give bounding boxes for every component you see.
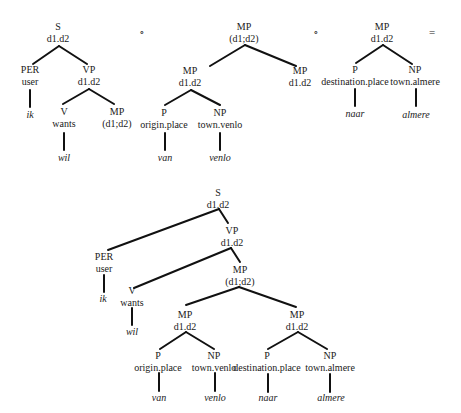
node-category: MP — [178, 309, 193, 320]
node-feature: user — [22, 76, 39, 87]
node-feature: d1.d2 — [221, 237, 244, 248]
node-feature: destination.place — [321, 76, 389, 87]
tree-node-vp: VPd1.d2 — [221, 225, 244, 248]
leaf-word-wil: wil — [126, 326, 138, 337]
node-feature: town.venlo — [192, 362, 237, 373]
tree-edge — [186, 287, 239, 305]
tree-node-p: Pdestination.place — [321, 64, 389, 87]
tree-edge — [383, 45, 412, 64]
node-feature: d1.d2 — [289, 77, 312, 88]
node-feature: d1.d2 — [174, 321, 197, 332]
leaf-word-venlo: venlo — [204, 392, 226, 403]
leaf-word-naar: naar — [259, 392, 278, 403]
node-category: MP — [233, 264, 248, 275]
tree-edge — [219, 209, 228, 223]
node-feature: d1.d2 — [47, 33, 70, 44]
node-feature: (d1;d2) — [229, 33, 258, 45]
tree-edge — [245, 45, 296, 66]
compose-operator: ∘ — [313, 26, 318, 38]
tree-node-mp2: MPd1.d2 — [286, 309, 309, 332]
tree-node-np1: NPtown.venlo — [192, 350, 237, 373]
tree-node-s: Sd1.d2 — [47, 21, 70, 44]
node-category: NP — [214, 107, 227, 118]
leaf-word-van: van — [152, 392, 166, 403]
node-feature: (d1;d2) — [102, 118, 131, 130]
node-category: VP — [226, 225, 239, 236]
leaf-word-van: van — [158, 152, 172, 163]
node-feature: origin.place — [134, 362, 182, 373]
tree-node-mp2: MPd1.d2 — [289, 65, 312, 88]
tree-edge — [63, 89, 89, 104]
compose-operator: ∘ — [139, 26, 144, 38]
node-feature: town.venlo — [198, 119, 243, 130]
node-feature: user — [96, 263, 113, 274]
tree-mp-2: MPd1.d2Pdestination.placeNPtown.almerena… — [321, 21, 440, 120]
node-category: P — [264, 350, 270, 361]
tree-edge — [33, 46, 59, 64]
tree-edge — [186, 332, 214, 349]
tree-edge — [356, 45, 383, 63]
node-category: NP — [324, 350, 337, 361]
node-feature: (d1;d2) — [225, 276, 254, 288]
node-feature: d1.d2 — [179, 77, 202, 88]
node-category: V — [128, 285, 136, 296]
tree-edge — [108, 209, 219, 250]
tree-edge — [59, 46, 87, 64]
node-feature: d1.d2 — [207, 199, 230, 210]
parse-trees: Sd1.d2PERuserVPd1.d2ikVwantsMP(d1;d2)wil… — [21, 21, 441, 403]
tree-composition-diagram: ∘∘= Sd1.d2PERuserVPd1.d2ikVwantsMP(d1;d2… — [0, 0, 461, 413]
tree-edge — [210, 45, 245, 66]
tree-node-mp1: MPd1.d2 — [174, 309, 197, 332]
leaf-word-wil: wil — [58, 152, 70, 163]
tree-edge — [298, 332, 327, 349]
node-feature: wants — [120, 297, 143, 308]
leaf-word-ik: ik — [26, 109, 34, 120]
tree-edge — [268, 332, 298, 349]
node-feature: d1.d2 — [286, 321, 309, 332]
tree-node-vp: VPd1.d2 — [78, 64, 101, 87]
tree-node-np2: NPtown.almere — [305, 350, 355, 373]
node-feature: origin.place — [140, 119, 188, 130]
tree-result: Sd1.d2VPd1.d2PERuserMP(d1;d2)ikVwantswil… — [95, 187, 356, 403]
leaf-word-almere: almere — [317, 392, 345, 403]
node-category: NP — [409, 64, 422, 75]
node-feature: town.almere — [305, 362, 355, 373]
node-feature: d1.d2 — [371, 33, 394, 44]
node-category: MP — [290, 309, 305, 320]
node-category: S — [215, 187, 221, 198]
tree-node-mp: MP(d1;d2) — [225, 264, 254, 288]
tree-edge — [191, 90, 220, 105]
equals-operator: = — [429, 26, 435, 38]
node-feature: wants — [52, 118, 75, 129]
leaf-word-almere: almere — [402, 109, 430, 120]
tree-edge — [165, 90, 191, 105]
tree-s: Sd1.d2PERuserVPd1.d2ikVwantsMP(d1;d2)wil — [21, 21, 132, 163]
node-category: MP — [237, 21, 252, 32]
tree-node-p2: Pdestination.place — [233, 350, 301, 373]
node-category: P — [352, 64, 358, 75]
tree-edge — [134, 248, 231, 288]
tree-edge — [231, 248, 240, 262]
node-category: MP — [293, 65, 308, 76]
tree-node-v: Vwants — [52, 106, 75, 129]
node-category: PER — [95, 251, 114, 262]
tree-node-v: Vwants — [120, 285, 143, 308]
leaf-word-naar: naar — [346, 108, 365, 119]
node-feature: d1.d2 — [78, 76, 101, 87]
tree-node-per: PERuser — [21, 64, 40, 87]
node-category: MP — [110, 106, 125, 117]
tree-mp-1: MP(d1;d2)MPd1.d2MPd1.d2Porigin.placeNPto… — [140, 21, 311, 163]
tree-node-p1: Porigin.place — [134, 350, 182, 373]
leaf-word-venlo: venlo — [209, 152, 231, 163]
tree-edge — [239, 287, 296, 307]
tree-node-np: NPtown.venlo — [198, 107, 243, 130]
node-feature: town.almere — [390, 76, 440, 87]
node-category: P — [155, 350, 161, 361]
tree-edge — [89, 89, 114, 104]
node-feature: destination.place — [233, 362, 301, 373]
leaf-word-ik: ik — [99, 293, 107, 304]
node-category: MP — [183, 65, 198, 76]
tree-node-mp: MPd1.d2 — [371, 21, 394, 44]
tree-node-p: Porigin.place — [140, 107, 188, 130]
node-category: P — [161, 107, 167, 118]
